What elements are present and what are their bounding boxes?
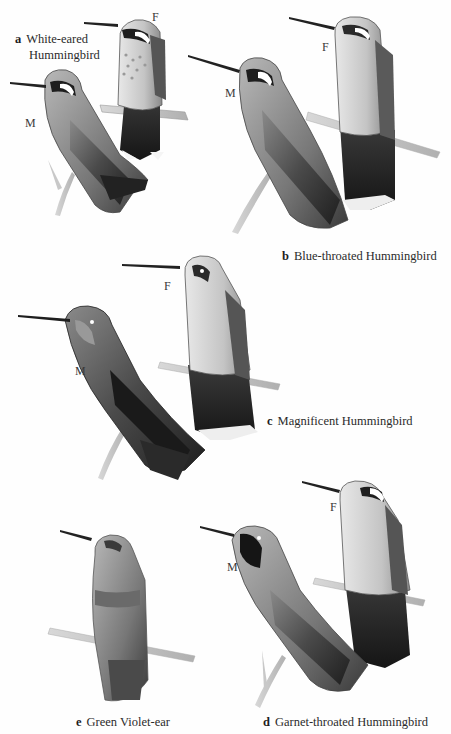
species-name: Blue-throated Hummingbird xyxy=(294,249,437,263)
sex-label-a-female: F xyxy=(152,10,159,25)
bird-c-male xyxy=(18,306,205,480)
species-letter: c xyxy=(267,414,273,428)
species-label-d: dGarnet-throated Hummingbird xyxy=(263,714,428,730)
sex-label-b-female: F xyxy=(322,40,329,55)
species-name: Green Violet-ear xyxy=(87,715,170,729)
sex-label-a-male: M xyxy=(25,116,36,131)
illustration-plate: aWhite-eared Hummingbird F M bBlue-throa… xyxy=(0,0,451,734)
species-label-e: eGreen Violet-ear xyxy=(76,714,170,730)
species-letter: e xyxy=(76,715,82,729)
bird-e xyxy=(48,530,195,701)
plate-illustrations xyxy=(0,0,451,734)
species-label-a: aWhite-eared Hummingbird xyxy=(15,31,100,63)
sex-label-d-male: M xyxy=(227,560,238,575)
species-label-c: cMagnificent Hummingbird xyxy=(267,413,413,429)
bird-b-male xyxy=(188,55,348,234)
species-label-b: bBlue-throated Hummingbird xyxy=(282,248,437,264)
sex-label-d-female: F xyxy=(330,500,337,515)
species-letter: b xyxy=(282,249,289,263)
species-name-line2: Hummingbird xyxy=(15,47,100,63)
species-name: Magnificent Hummingbird xyxy=(278,414,413,428)
species-letter: a xyxy=(15,32,21,46)
species-letter: d xyxy=(263,715,270,729)
species-name: White-eared xyxy=(26,32,88,46)
sex-label-b-male: M xyxy=(225,86,236,101)
sex-label-c-female: F xyxy=(164,279,171,294)
species-name: Garnet-throated Hummingbird xyxy=(275,715,428,729)
sex-label-c-male: M xyxy=(75,364,86,379)
